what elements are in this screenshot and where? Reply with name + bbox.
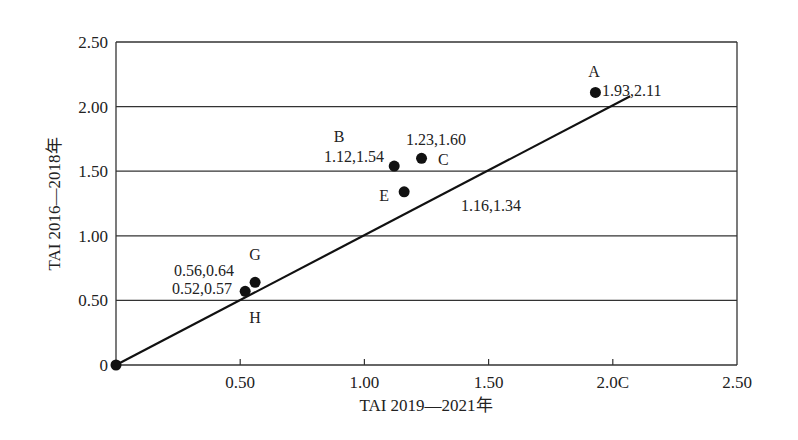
scatter-chart: 0.501.001.502.0C2.50 00.501.001.502.002.…	[0, 0, 798, 440]
point-name-label: G	[249, 246, 261, 263]
x-tick-label: 1.50	[474, 373, 504, 392]
point-value-label: 1.93,2.11	[602, 82, 661, 99]
y-tick-label: 1.00	[78, 227, 108, 246]
point-name-label: A	[588, 63, 600, 80]
data-point-origin	[111, 360, 122, 371]
point-value-label: 0.52,0.57	[172, 280, 232, 297]
y-axis-label: TAI 2016—2018年	[45, 137, 64, 270]
x-tick-label: 1.00	[350, 373, 380, 392]
point-name-label: B	[334, 128, 345, 145]
data-point-b	[389, 161, 400, 172]
point-name-label: H	[249, 309, 261, 326]
y-tick-label: 0	[100, 356, 109, 375]
x-axis-ticks: 0.501.001.502.0C2.50	[225, 359, 752, 392]
y-tick-label: 2.50	[78, 33, 108, 52]
data-point-c	[416, 153, 427, 164]
point-value-label: 1.16,1.34	[461, 197, 521, 214]
data-point-h	[240, 286, 251, 297]
point-name-label: E	[379, 187, 389, 204]
data-point-g	[250, 277, 261, 288]
data-points	[111, 87, 601, 371]
reference-line	[116, 96, 630, 365]
x-axis-label: TAI 2019—2021年	[359, 396, 492, 415]
point-name-label: C	[438, 151, 449, 168]
point-value-label: 0.56,0.64	[174, 262, 234, 279]
data-point-e	[399, 186, 410, 197]
data-point-a	[590, 87, 601, 98]
point-value-label: 1.12,1.54	[324, 148, 384, 165]
y-tick-label: 0.50	[78, 291, 108, 310]
x-tick-label: 2.50	[722, 373, 752, 392]
x-tick-label: 0.50	[225, 373, 255, 392]
y-axis-ticks: 00.501.001.502.002.50	[78, 33, 108, 375]
x-tick-label: 2.0C	[597, 373, 630, 392]
diagonal-line	[116, 96, 630, 365]
point-value-label: 1.23,1.60	[406, 131, 466, 148]
y-tick-label: 2.00	[78, 98, 108, 117]
y-tick-label: 1.50	[78, 162, 108, 181]
